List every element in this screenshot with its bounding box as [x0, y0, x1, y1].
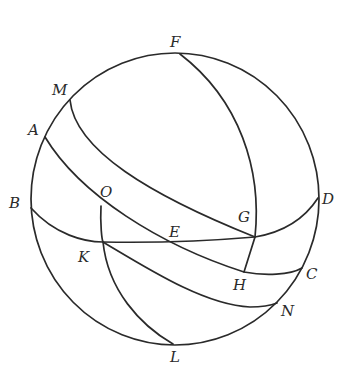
- label-B: B: [8, 194, 20, 212]
- label-C: C: [306, 265, 318, 283]
- label-F: F: [169, 33, 181, 51]
- arc-O-K-L: [101, 206, 173, 344]
- label-A: A: [26, 121, 39, 139]
- label-G: G: [238, 208, 250, 226]
- label-E: E: [168, 223, 180, 241]
- arc-M-G: [70, 100, 255, 237]
- label-H: H: [232, 276, 247, 294]
- label-M: M: [51, 81, 68, 99]
- label-D: D: [321, 190, 334, 208]
- sphere-outline: [31, 53, 319, 345]
- label-K: K: [77, 248, 90, 266]
- sphere-diagram: F M A B O G D E K H C N L: [0, 0, 350, 368]
- label-O: O: [100, 183, 112, 201]
- label-L: L: [169, 348, 180, 366]
- label-N: N: [280, 302, 295, 320]
